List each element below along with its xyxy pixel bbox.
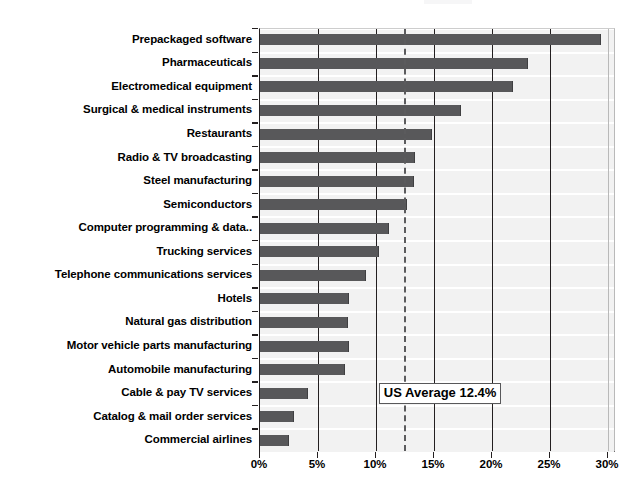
category-label: Trucking services (0, 245, 252, 257)
category-label: Cable & pay TV services (0, 386, 252, 398)
category-tick (252, 405, 258, 406)
scan-artifact (424, 0, 472, 4)
bar (260, 411, 294, 422)
row-band (260, 430, 614, 452)
bar (260, 105, 461, 116)
value-tick-label: 30% (595, 458, 618, 470)
bar (260, 293, 349, 304)
category-tick (252, 122, 258, 123)
category-label: Automobile manufacturing (0, 363, 252, 375)
category-tick (252, 381, 258, 382)
us-average-label: US Average 12.4% (379, 383, 502, 404)
plot-area: US Average 12.4% (259, 28, 615, 452)
category-tick (252, 28, 258, 29)
bar (260, 246, 379, 257)
bar (260, 317, 348, 328)
category-label: Hotels (0, 292, 252, 304)
category-label: Surgical & medical instruments (0, 103, 252, 115)
bar (260, 199, 407, 210)
category-tick (252, 334, 258, 335)
row-band (260, 407, 614, 429)
bar (260, 176, 414, 187)
category-label: Commercial airlines (0, 433, 252, 445)
category-tick (252, 240, 258, 241)
bar (260, 341, 349, 352)
category-tick (252, 311, 258, 312)
category-tick (252, 193, 258, 194)
bar (260, 388, 308, 399)
bar (260, 152, 415, 163)
category-axis-ticks (252, 28, 259, 452)
value-tick-label: 10% (363, 458, 386, 470)
category-tick (252, 216, 258, 217)
value-tick-label: 25% (537, 458, 560, 470)
category-tick (252, 146, 258, 147)
gridline-30pct (608, 29, 609, 451)
category-axis-labels: Prepackaged softwarePharmaceuticalsElect… (0, 28, 252, 452)
category-tick (252, 264, 258, 265)
value-tick-label: 0% (251, 458, 268, 470)
category-label: Telephone communications services (0, 268, 252, 280)
bar (260, 364, 345, 375)
category-label: Natural gas distribution (0, 315, 252, 327)
value-tick-label: 5% (309, 458, 326, 470)
bar-chart: Prepackaged softwarePharmaceuticalsElect… (0, 0, 642, 492)
bar (260, 435, 289, 446)
category-tick (252, 75, 258, 76)
bar (260, 34, 601, 45)
category-tick (252, 287, 258, 288)
bar (260, 223, 389, 234)
category-label: Steel manufacturing (0, 174, 252, 186)
category-label: Pharmaceuticals (0, 56, 252, 68)
value-tick-label: 20% (479, 458, 502, 470)
category-label: Restaurants (0, 127, 252, 139)
category-label: Semiconductors (0, 198, 252, 210)
category-tick (252, 169, 258, 170)
value-axis-labels: 0%5%10%15%20%25%30% (259, 458, 615, 476)
gridline-25pct (550, 29, 551, 451)
category-label: Catalog & mail order services (0, 410, 252, 422)
category-label: Radio & TV broadcasting (0, 151, 252, 163)
category-tick (252, 428, 258, 429)
bar (260, 81, 513, 92)
category-label: Computer programming & data.. (0, 221, 252, 233)
category-label: Electromedical equipment (0, 80, 252, 92)
bar (260, 58, 528, 69)
category-tick (252, 52, 258, 53)
bar (260, 129, 432, 140)
category-tick (252, 358, 258, 359)
category-tick (252, 99, 258, 100)
value-tick-label: 15% (421, 458, 444, 470)
category-label: Motor vehicle parts manufacturing (0, 339, 252, 351)
category-label: Prepackaged software (0, 33, 252, 45)
bar (260, 270, 366, 281)
